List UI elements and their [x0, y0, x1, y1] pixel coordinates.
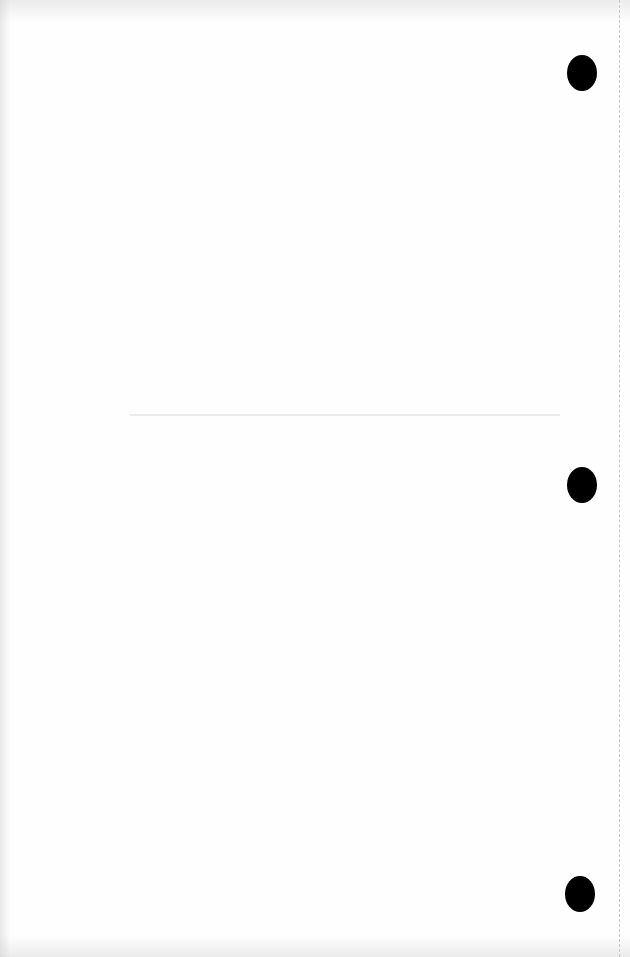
scan-edge-left	[0, 0, 10, 957]
blank-scanned-page: top-right middle-right bottom-right	[0, 0, 630, 957]
perforation-line	[619, 0, 620, 957]
scan-edge-top	[0, 0, 630, 22]
scan-edge-bottom	[0, 935, 630, 957]
punch-hole-icon: top-right	[567, 55, 597, 91]
punch-hole-icon: middle-right	[567, 467, 597, 503]
faint-scan-smudge	[130, 414, 560, 416]
punch-hole-icon: bottom-right	[565, 876, 595, 912]
